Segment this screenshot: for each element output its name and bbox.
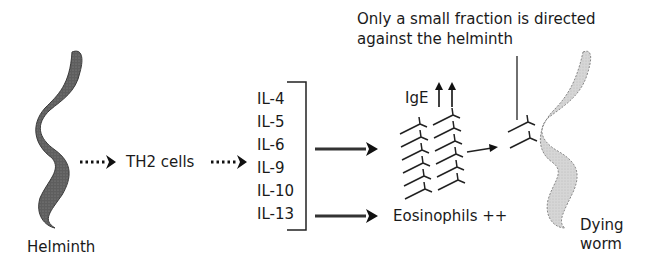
dotted-arrow-helminth-to-th2 (80, 155, 116, 169)
th2-cells-label: TH2 cells (126, 153, 194, 171)
diagram-canvas (0, 0, 650, 272)
ige-increase-arrows-icon (435, 82, 456, 107)
helminth-label: Helminth (27, 238, 95, 256)
helminth-worm-icon (36, 51, 82, 228)
arrow-to-ige (315, 142, 378, 156)
arrow-to-specific-ige (467, 144, 498, 152)
cytokine-il5: IL-5 (257, 113, 284, 131)
specific-ige-antibodies-icon (508, 115, 537, 148)
dying-worm-label-2: worm (580, 235, 622, 253)
dying-worm-icon (540, 51, 590, 228)
dying-worm-label-1: Dying (580, 216, 624, 234)
cytokine-il9: IL-9 (257, 159, 284, 177)
annotation-line-1: Only a small fraction is directed (357, 10, 596, 28)
ige-antibodies-icon (400, 108, 465, 199)
eosinophils-label: Eosinophils ++ (393, 207, 507, 225)
arrow-to-eosinophils (315, 209, 378, 223)
cytokine-il13: IL-13 (257, 205, 294, 223)
annotation-line-2: against the helminth (357, 30, 513, 48)
ige-label: IgE (405, 89, 428, 107)
dotted-arrow-th2-to-cytokines (211, 155, 247, 169)
cytokine-il6: IL-6 (257, 136, 284, 154)
cytokine-il10: IL-10 (257, 182, 294, 200)
cytokine-il4: IL-4 (257, 90, 284, 108)
